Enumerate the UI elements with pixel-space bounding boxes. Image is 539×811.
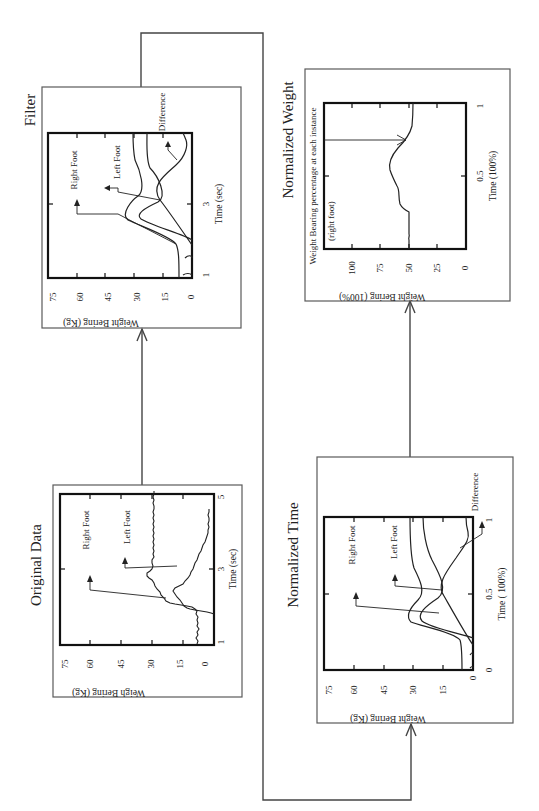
ntime-ylabel: Weight Bering (Kg) [350, 713, 426, 724]
ntime-right-foot-label: Right Foot [347, 525, 357, 564]
arrowhead-icon [353, 592, 359, 599]
xtick-0: 0 [484, 667, 494, 672]
filter-frame [42, 87, 241, 328]
ytick-45: 45 [116, 659, 126, 669]
filter-right-foot-label: Right Foot [69, 150, 79, 189]
ytick-100: 100 [347, 261, 357, 275]
xtick-3: 3 [201, 201, 211, 206]
filter-diff-leader [168, 146, 177, 160]
ytick-75: 75 [375, 263, 385, 273]
ytick-0: 0 [468, 675, 478, 680]
filter-left-foot-curve [139, 133, 192, 240]
ntime-title: Normalized Time [285, 502, 301, 608]
diagram-canvas: Filter 75 60 45 30 15 0 Weight Bering (K… [0, 0, 539, 811]
ntime-left-foot-label: Left Foot [389, 525, 399, 559]
ytick-30: 30 [132, 292, 142, 302]
xtick-1: 1 [484, 518, 494, 523]
nweight-title: Normalized Weight [280, 81, 296, 199]
ntime-xlabel: Time ( 100%) [497, 568, 508, 621]
ntime-right-leader [356, 598, 439, 613]
xtick-5: 5 [216, 494, 226, 499]
original-right-foot-label: Right Foot [81, 510, 91, 549]
ytick-60: 60 [85, 659, 95, 669]
arrowhead-icon [392, 574, 398, 581]
nweight-right-foot-curve [389, 103, 413, 249]
ytick-15: 15 [175, 659, 185, 669]
filter-baseline-noise [183, 256, 192, 275]
nweight-xlabel: Time (100%) [488, 151, 499, 202]
xtick-0-5: 0.5 [484, 588, 494, 600]
ytick-75: 75 [60, 659, 70, 669]
arrowhead-icon [74, 199, 80, 206]
ytick-0: 0 [460, 265, 470, 270]
panel-filter: Filter 75 60 45 30 15 0 Weight Bering (K… [22, 87, 241, 328]
panel-normalized-weight: Normalized Weight 100 75 50 25 0 Weight … [280, 69, 510, 302]
ytick-60: 60 [75, 292, 85, 302]
ytick-75: 75 [324, 685, 334, 695]
ytick-30: 30 [146, 659, 156, 669]
original-left-foot-curve [173, 509, 214, 614]
ntime-left-foot-curve [420, 517, 473, 638]
original-ylabel: Weigh Bering (Kg) [72, 687, 145, 698]
filter-left-foot-label: Left Foot [112, 145, 122, 179]
ytick-60: 60 [349, 685, 359, 695]
xtick-1: 1 [216, 640, 226, 645]
original-right-foot-curve [147, 491, 199, 644]
ntime-left-leader [395, 580, 442, 590]
nweight-ylabel: Weight Bering (100%) [339, 291, 425, 302]
original-title: Original Data [28, 524, 44, 606]
connector-ntime-to-nweight [405, 301, 415, 457]
nweight-annotation: Weight Bearing percentage at each instan… [308, 108, 318, 265]
xtick-3: 3 [216, 566, 226, 571]
ytick-0: 0 [186, 294, 196, 299]
arrowhead-icon [104, 185, 110, 191]
original-left-leader [125, 563, 177, 568]
nweight-annotation-right-foot: (right foot) [326, 201, 336, 241]
arrowhead-icon [165, 141, 171, 147]
ntime-right-foot-curve [408, 517, 462, 670]
ntime-difference-curve [441, 517, 473, 645]
ntime-difference-label: Difference [470, 473, 480, 511]
nweight-ticks [324, 103, 466, 249]
original-xlabel: Time (sec) [228, 549, 239, 590]
nweight-plot-area [324, 103, 466, 249]
xtick-1: 1 [201, 273, 211, 278]
ytick-15: 15 [438, 685, 448, 695]
ytick-0: 0 [200, 661, 210, 666]
filter-xlabel: Time (sec) [214, 184, 225, 225]
filter-right-foot-curve [125, 133, 179, 278]
xtick-1: 1 [475, 104, 485, 109]
arrowhead-icon [122, 557, 128, 564]
ytick-30: 30 [408, 685, 418, 695]
ytick-50: 50 [404, 263, 414, 273]
ytick-45: 45 [103, 292, 113, 302]
filter-title: Filter [22, 94, 38, 127]
connector-original-to-filter [137, 329, 147, 485]
ytick-45: 45 [379, 685, 389, 695]
original-left-foot-label: Left Foot [122, 510, 132, 544]
arrowhead-icon [87, 575, 93, 582]
ytick-25: 25 [432, 263, 442, 273]
xtick-0-5: 0.5 [475, 170, 485, 182]
filter-difference-label: Difference [157, 93, 167, 131]
ytick-75: 75 [48, 292, 58, 302]
panel-normalized-time: Normalized Time 75 60 45 30 15 0 Weight … [285, 457, 513, 724]
ytick-15: 15 [160, 292, 170, 302]
connector-filter-to-ntime [141, 33, 416, 800]
filter-ylabel: Weight Bering (Kg) [63, 317, 139, 328]
ntime-diff-leader [460, 527, 482, 548]
panel-original-data: Original Data 75 60 45 30 15 0 Weigh Ber… [28, 485, 242, 698]
